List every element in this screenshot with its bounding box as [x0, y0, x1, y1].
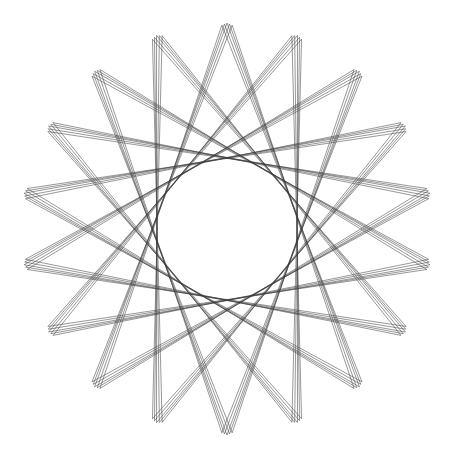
background [0, 0, 449, 458]
spirograph-svg [0, 0, 449, 458]
spirograph-figure [0, 0, 449, 458]
